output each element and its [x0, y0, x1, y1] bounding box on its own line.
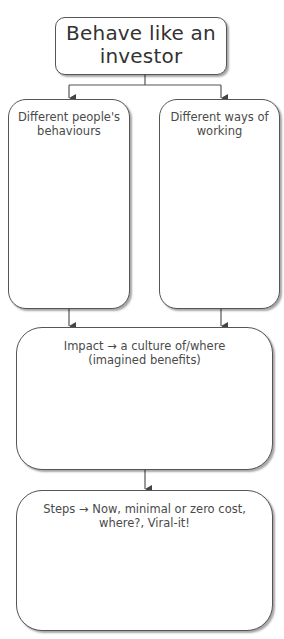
- node-impact: Impact → a culture of/where (imagined be…: [16, 327, 273, 470]
- node-label: Steps → Now, minimal or zero cost, where…: [17, 502, 272, 530]
- node-label: Different ways of working: [160, 110, 279, 138]
- node-different-ways-of-working: Different ways of working: [159, 99, 280, 309]
- node-different-peoples-behaviours: Different people's behaviours: [8, 99, 130, 309]
- node-label: Different people's behaviours: [9, 110, 129, 138]
- title-node: Behave like an investor: [55, 17, 227, 75]
- title-line-2: investor: [56, 45, 226, 68]
- node-steps: Steps → Now, minimal or zero cost, where…: [16, 490, 273, 631]
- node-label: Impact → a culture of/where (imagined be…: [17, 339, 272, 367]
- title-line-1: Behave like an: [56, 22, 226, 45]
